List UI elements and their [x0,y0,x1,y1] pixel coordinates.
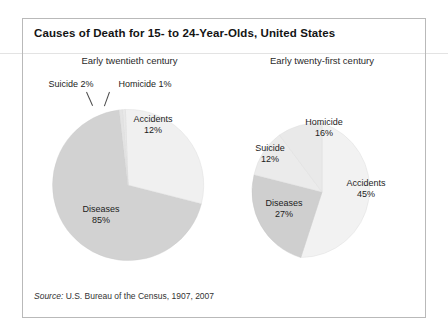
pie-label-accidents-right-value: 45% [357,189,375,199]
source-text: U.S. Bureau of the Census, 1907, 2007 [63,291,214,301]
pie-label-accidents-left-value: 12% [144,125,162,135]
chart-heading-right: Early twenty-first century [252,55,392,66]
pie-callout-suicide-left: Suicide 2% [40,79,102,90]
figure-screenshot: Causes of Death for 15- to 24-Year-Olds,… [0,0,448,333]
pie-label-suicide-right-value: 12% [261,154,279,164]
source-label: Source: [34,291,63,301]
chart-heading-left: Early twentieth century [62,55,197,66]
pie-label-diseases-right: Diseases 27% [253,198,315,220]
pie-label-diseases-left-value: 85% [92,215,110,225]
pie-label-homicide-right-value: 16% [315,128,333,138]
source-note: Source: U.S. Bureau of the Census, 1907,… [34,291,214,301]
pie-label-diseases-right-name: Diseases [265,198,302,208]
pie-label-diseases-left: Diseases 85% [68,204,134,226]
pie-label-homicide-right: Homicide 16% [293,117,355,139]
pie-label-accidents-right: Accidents 45% [335,178,397,200]
pie-label-homicide-right-name: Homicide [305,117,343,127]
pie-callout-homicide-left: Homicide 1% [110,79,180,90]
pie-label-diseases-right-value: 27% [275,209,293,219]
page-title: Causes of Death for 15- to 24-Year-Olds,… [34,27,335,39]
pie-label-accidents-right-name: Accidents [346,178,385,188]
pie-label-suicide-right: Suicide 12% [243,143,297,165]
pie-label-accidents-left-name: Accidents [133,114,172,124]
pie-label-diseases-left-name: Diseases [82,204,119,214]
pie-label-accidents-left: Accidents 12% [123,114,183,136]
pie-label-suicide-right-name: Suicide [255,143,285,153]
